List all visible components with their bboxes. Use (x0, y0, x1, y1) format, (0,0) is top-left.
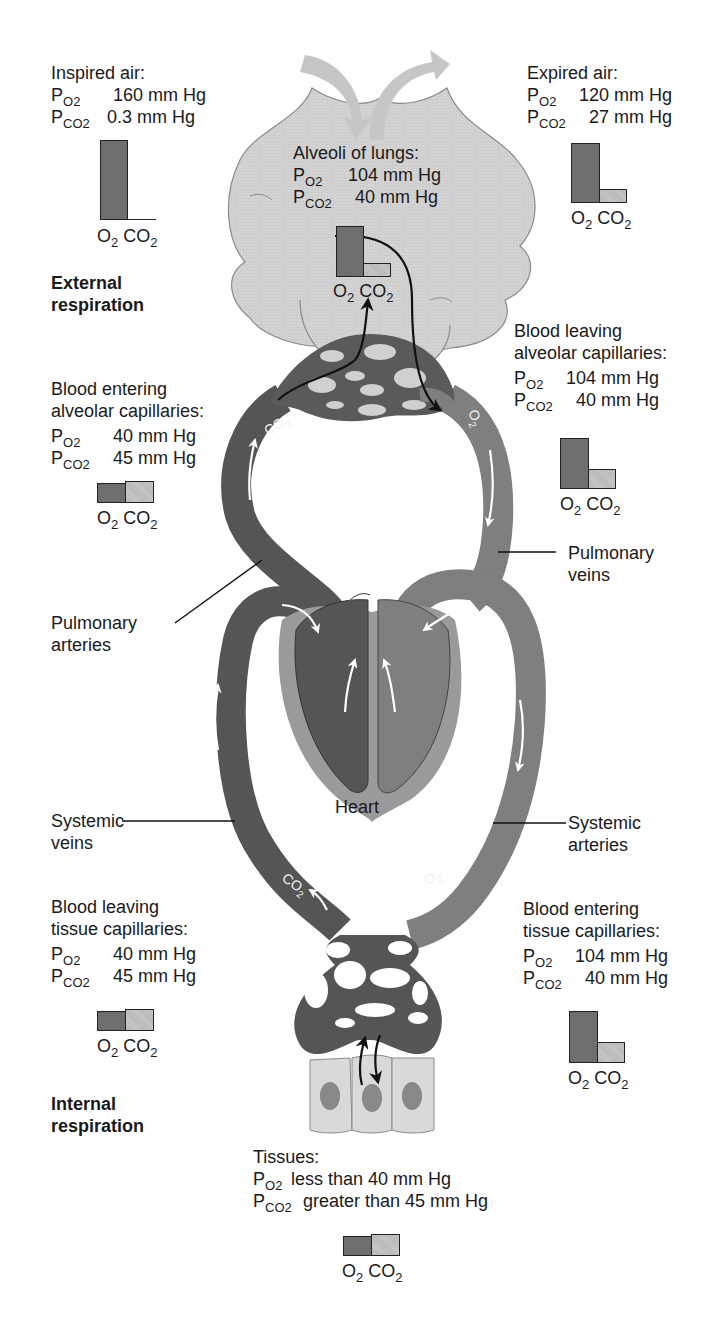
internal-respiration-heading: Internal respiration (51, 1093, 144, 1137)
entering-alveolar-po2-value: 40 mm Hg (113, 425, 196, 447)
po2-symbol: PO2 (51, 84, 113, 106)
blood-entering-tissue-block: Blood entering tissue capillaries: PO210… (523, 898, 668, 989)
alveoli-po2-value: 104 mm Hg (348, 164, 441, 186)
o2-bar (97, 483, 126, 503)
pco2-symbol: PCO2 (523, 967, 585, 989)
block-title: tissue capillaries: (523, 920, 668, 942)
expired-po2-value: 120 mm Hg (579, 84, 672, 106)
inspired-air-title: Inspired air: (51, 62, 206, 84)
expired-axis-labels: O2 CO2 (571, 208, 632, 228)
tissues-bar-chart (343, 1234, 400, 1256)
po2-symbol: PO2 (51, 943, 113, 965)
inspired-air-block: Inspired air: PO2160 mm Hg PCO20.3 mm Hg (51, 62, 206, 128)
label-line: arteries (568, 834, 641, 856)
po2-symbol: PO2 (253, 1168, 291, 1190)
block-title: alveolar capillaries: (51, 400, 204, 422)
inspired-air-bar-chart (100, 140, 156, 220)
pco2-symbol: PCO2 (51, 447, 113, 469)
block-title: Blood leaving (514, 320, 667, 342)
alveoli-axis-labels: O2 CO2 (333, 281, 394, 301)
heading-line: Internal (51, 1093, 144, 1115)
leaving-tissue-po2-value: 40 mm Hg (113, 943, 196, 965)
leaving-tissue-pco2-value: 45 mm Hg (113, 965, 196, 987)
block-title: alveolar capillaries: (514, 342, 667, 364)
tissues-block: Tissues: PO2less than 40 mm Hg PCO2great… (253, 1146, 488, 1212)
expired-air-block: Expired air: PO2120 mm Hg PCO227 mm Hg (527, 62, 672, 128)
leaving-tissue-bar-chart (97, 1009, 154, 1031)
tissue-cells (310, 1055, 434, 1133)
label-line: veins (51, 832, 124, 854)
systemic-arteries-label: Systemic arteries (568, 812, 641, 856)
label-line: Pulmonary (51, 612, 137, 634)
block-title: Blood entering (51, 378, 204, 400)
flow-arrow-icon (405, 885, 427, 905)
pulmonary-arteries-label: Pulmonary arteries (51, 612, 137, 656)
label-line: Systemic (568, 812, 641, 834)
o2-bar (336, 226, 364, 277)
expired-pco2-value: 27 mm Hg (589, 106, 672, 128)
entering-alveolar-pco2-value: 45 mm Hg (113, 447, 196, 469)
systemic-veins-label: Systemic veins (51, 810, 124, 854)
o2-bar (571, 143, 600, 203)
label-line: Systemic (51, 810, 124, 832)
o2-bar (100, 140, 128, 220)
tissues-pco2-value: greater than 45 mm Hg (303, 1190, 488, 1212)
heading-line: respiration (51, 294, 144, 316)
o2-bar (343, 1236, 372, 1256)
block-title: tissue capillaries: (51, 918, 196, 940)
o2-bar (97, 1011, 126, 1031)
entering-tissue-axis-labels: O2 CO2 (568, 1068, 629, 1088)
blood-leaving-tissue-block: Blood leaving tissue capillaries: PO240 … (51, 896, 196, 987)
pulmonary-veins-label: Pulmonary veins (568, 542, 654, 586)
inspired-axis-labels: O2 CO2 (97, 226, 158, 246)
label-line: Pulmonary (568, 542, 654, 564)
tissues-axis-labels: O2 CO2 (342, 1261, 403, 1281)
entering-tissue-po2-value: 104 mm Hg (575, 945, 668, 967)
entering-alveolar-axis-labels: O2 CO2 (97, 508, 158, 528)
tissues-po2-value: less than 40 mm Hg (291, 1168, 451, 1190)
co2-bar (125, 1009, 154, 1031)
alveoli-title: Alveoli of lungs: (293, 142, 441, 164)
leaving-alveolar-axis-labels: O2 CO2 (560, 494, 621, 514)
co2-bar (599, 189, 627, 203)
o2-bar (560, 438, 589, 489)
po2-symbol: PO2 (293, 164, 348, 186)
expired-air-bar-chart (571, 143, 627, 203)
label-line: arteries (51, 634, 137, 656)
expired-air-title: Expired air: (527, 62, 672, 84)
alveoli-pco2-value: 40 mm Hg (355, 186, 438, 208)
po2-symbol: PO2 (527, 84, 579, 106)
co2-bar (128, 219, 156, 221)
heading-line: External (51, 272, 144, 294)
blood-entering-alveolar-block: Blood entering alveolar capillaries: PO2… (51, 378, 204, 469)
pco2-symbol: PCO2 (253, 1190, 303, 1212)
entering-tissue-pco2-value: 40 mm Hg (585, 967, 668, 989)
tissues-title: Tissues: (253, 1146, 488, 1168)
pco2-symbol: PCO2 (293, 186, 355, 208)
inspired-pco2-value: 0.3 mm Hg (107, 106, 195, 128)
po2-symbol: PO2 (514, 367, 566, 389)
block-title: Blood leaving (51, 896, 196, 918)
heart-label: Heart (335, 796, 379, 818)
leaving-alveolar-bar-chart (560, 438, 616, 489)
pco2-symbol: PCO2 (514, 389, 576, 411)
leaving-tissue-axis-labels: O2 CO2 (97, 1036, 158, 1056)
leaving-alveolar-pco2-value: 40 mm Hg (576, 389, 659, 411)
alveoli-bar-chart (336, 226, 392, 277)
pco2-symbol: PCO2 (51, 106, 107, 128)
co2-bar (597, 1042, 625, 1063)
block-title: Blood entering (523, 898, 668, 920)
co2-bar (125, 481, 154, 503)
o2-bar (569, 1011, 598, 1063)
co2-bar (371, 1234, 400, 1256)
external-respiration-heading: External respiration (51, 272, 144, 316)
pco2-symbol: PCO2 (51, 965, 113, 987)
entering-tissue-bar-chart (569, 1011, 625, 1063)
label-line: veins (568, 564, 654, 586)
heading-line: respiration (51, 1115, 144, 1137)
co2-bar (588, 469, 616, 489)
inspired-po2-value: 160 mm Hg (113, 84, 206, 106)
heart-illustration (279, 594, 462, 822)
po2-symbol: PO2 (523, 945, 575, 967)
po2-symbol: PO2 (51, 425, 113, 447)
